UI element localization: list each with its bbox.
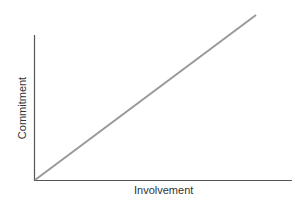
chart-canvas bbox=[0, 0, 303, 204]
line-chart: Commitment Involvement bbox=[0, 0, 303, 204]
x-axis-label: Involvement bbox=[134, 184, 193, 196]
y-axis-label-text: Commitment bbox=[16, 77, 28, 139]
data-line bbox=[35, 15, 256, 180]
